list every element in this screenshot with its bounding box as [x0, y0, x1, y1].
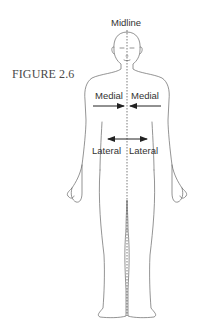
- medial-label-right: Medial: [131, 91, 159, 101]
- body-outline-drawing: [0, 0, 201, 323]
- midline-label: Midline: [111, 18, 141, 28]
- anatomy-figure: FIGURE 2.6 Midline Medial Medial Lateral…: [0, 0, 201, 323]
- figure-caption: FIGURE 2.6: [12, 67, 74, 82]
- lateral-label-left: Lateral: [92, 146, 121, 156]
- medial-label-left: Medial: [95, 91, 123, 101]
- lateral-label-right: Lateral: [129, 146, 158, 156]
- left-body-outline: [67, 32, 127, 196]
